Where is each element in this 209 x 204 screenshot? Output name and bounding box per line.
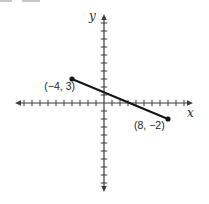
point-label-b: (8, −2)	[134, 120, 165, 131]
coordinate-plane-figure: y x (−4, 3) (8, −2)	[0, 0, 209, 204]
y-axis-up-arrow-icon	[101, 14, 107, 20]
data-point	[165, 116, 170, 121]
coordinate-plane	[0, 0, 209, 204]
x-axis-left-arrow-icon	[15, 100, 21, 106]
x-axis-right-arrow-icon	[187, 100, 193, 106]
segment-line	[72, 79, 168, 119]
y-axis-down-arrow-icon	[101, 186, 107, 192]
x-axis-label: x	[187, 107, 194, 119]
y-axis-label: y	[89, 10, 96, 22]
point-label-a: (−4, 3)	[37, 81, 75, 92]
